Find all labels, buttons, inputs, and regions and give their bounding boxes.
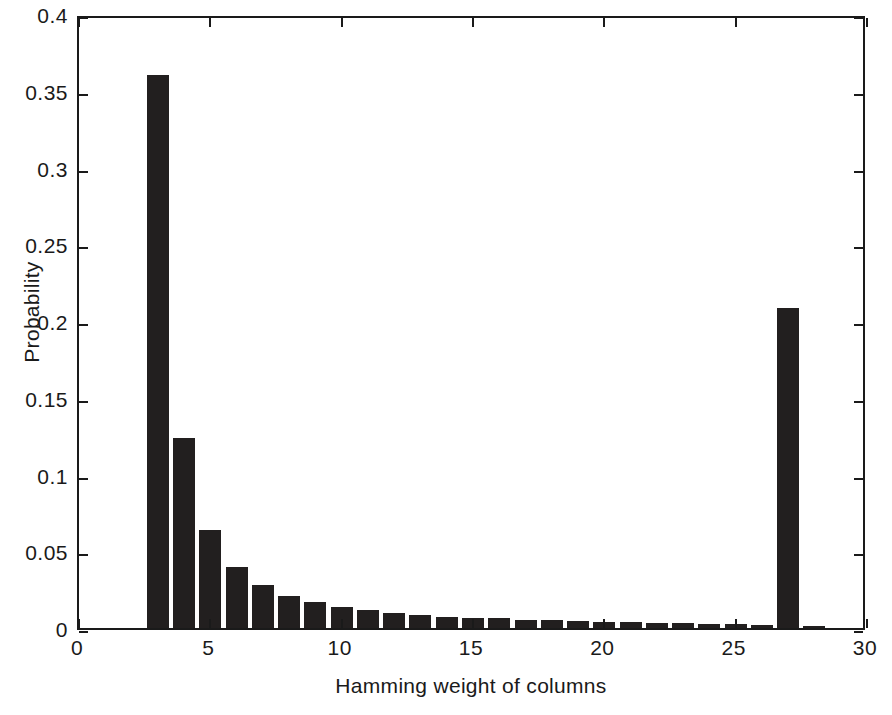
bar xyxy=(541,620,563,628)
bar xyxy=(515,620,537,628)
bar xyxy=(278,596,300,628)
y-tick-mark xyxy=(854,401,863,403)
x-tick-label: 0 xyxy=(71,637,83,658)
bar xyxy=(620,622,642,628)
bar xyxy=(252,585,274,628)
y-tick-label: 0.4 xyxy=(37,5,68,26)
bar xyxy=(357,610,379,628)
bar xyxy=(803,626,825,628)
y-axis-title: Probability xyxy=(20,112,44,512)
bar xyxy=(226,567,248,628)
x-tick-mark xyxy=(78,18,80,27)
y-tick-mark xyxy=(79,247,88,249)
y-tick-mark xyxy=(79,17,88,19)
x-tick-label: 25 xyxy=(721,637,745,658)
x-tick-mark xyxy=(209,18,211,27)
y-tick-label: 0.35 xyxy=(25,82,68,103)
y-tick-label: 0.05 xyxy=(25,542,68,563)
x-tick-mark xyxy=(472,619,474,628)
bar xyxy=(672,623,694,628)
plot-area xyxy=(77,16,865,630)
y-tick-mark xyxy=(854,171,863,173)
y-tick-mark xyxy=(854,17,863,19)
bar-series xyxy=(79,18,863,628)
y-tick-mark xyxy=(79,94,88,96)
x-tick-mark xyxy=(341,18,343,27)
bar xyxy=(436,617,458,629)
bar xyxy=(383,613,405,628)
x-axis-title: Hamming weight of columns xyxy=(77,674,865,698)
y-tick-mark xyxy=(854,478,863,480)
x-tick-mark xyxy=(866,619,868,628)
x-tick-label: 15 xyxy=(459,637,483,658)
bar xyxy=(567,621,589,628)
x-tick-mark xyxy=(78,619,80,628)
bar xyxy=(409,615,431,628)
y-tick-mark xyxy=(854,94,863,96)
x-tick-mark xyxy=(341,619,343,628)
bar xyxy=(173,438,195,628)
y-tick-mark xyxy=(854,631,863,633)
x-tick-mark xyxy=(866,18,868,27)
bar xyxy=(751,625,773,628)
y-tick-mark xyxy=(79,554,88,556)
x-tick-mark xyxy=(735,619,737,628)
bar xyxy=(304,602,326,628)
y-tick-mark xyxy=(854,324,863,326)
x-tick-label: 5 xyxy=(202,637,214,658)
x-tick-mark xyxy=(603,619,605,628)
bar xyxy=(199,530,221,628)
x-tick-mark xyxy=(472,18,474,27)
y-tick-mark xyxy=(79,324,88,326)
x-tick-label: 30 xyxy=(853,637,877,658)
bar xyxy=(488,618,510,628)
y-tick-mark xyxy=(854,554,863,556)
y-tick-mark xyxy=(79,631,88,633)
x-tick-label: 10 xyxy=(327,637,351,658)
x-tick-label: 20 xyxy=(590,637,614,658)
y-tick-mark xyxy=(79,171,88,173)
x-tick-mark xyxy=(209,619,211,628)
y-tick-mark xyxy=(79,401,88,403)
chart-figure: 00.050.10.150.20.250.30.350.4 0510152025… xyxy=(0,0,892,715)
bar xyxy=(646,623,668,628)
bar xyxy=(698,624,720,628)
y-tick-mark xyxy=(854,247,863,249)
x-tick-mark xyxy=(735,18,737,27)
x-tick-mark xyxy=(603,18,605,27)
x-axis-tick-labels: 051015202530 xyxy=(0,637,892,667)
bar xyxy=(147,75,169,628)
bar xyxy=(777,308,799,628)
y-tick-mark xyxy=(79,478,88,480)
